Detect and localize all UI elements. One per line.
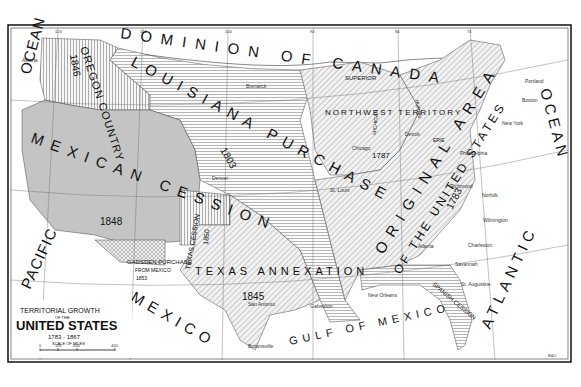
- city-chicago: Chicago: [352, 145, 371, 151]
- label-texas-annexation: TEXAS ANNEXATION: [195, 265, 368, 277]
- city-boston: Boston: [522, 97, 538, 103]
- map-title-years: 1783 - 1867: [48, 334, 81, 340]
- longitude-tick: 104: [225, 29, 232, 34]
- territorial-growth-map: 124 114 104 94 84 74 OCEAN PACIFIC DOMIN…: [0, 0, 581, 387]
- longitude-tick: 124: [55, 29, 62, 34]
- city-detroit: Detroit: [405, 131, 420, 137]
- city-st-augustine: St. Augustine: [461, 281, 491, 287]
- city-brownsville: Brownsville: [248, 343, 274, 349]
- year-gadsden: 1853: [136, 275, 147, 281]
- longitude-tick: 74: [467, 29, 472, 34]
- scale-tick: 400: [111, 343, 118, 348]
- city-new-orleans: New Orleans: [368, 292, 397, 298]
- label-gadsden-sub: FROM MEXICO: [135, 267, 171, 273]
- city-st-louis: St. Louis: [330, 187, 350, 193]
- city-philadelphia: Philadelphia: [460, 150, 487, 156]
- city-bismarck: Bismarck: [246, 83, 267, 89]
- label-northwest: NORTHWEST TERRITORY: [325, 108, 462, 117]
- city-astoria: Astoria: [22, 57, 38, 63]
- scale-tick: 100: [55, 343, 62, 348]
- city-charleston: Charleston: [468, 242, 492, 248]
- credit-mark: B&Ll: [548, 353, 557, 358]
- map-title-line1: TERRITORIAL GROWTH: [20, 307, 100, 314]
- city-savannah: Savannah: [455, 261, 478, 267]
- city-richmond: Richmond: [450, 183, 473, 189]
- label-lake-superior: SUPERIOR: [345, 75, 377, 81]
- year-texas-cession: 1850: [202, 229, 210, 245]
- longitude-tick: 94: [310, 29, 315, 34]
- year-northwest: 1787: [372, 151, 390, 160]
- label-gadsden: GADSDEN PURCHASE: [127, 259, 192, 265]
- longitude-tick: 84: [395, 29, 400, 34]
- city-san-antonio: San Antonio: [248, 301, 275, 307]
- city-galveston: Galveston: [310, 303, 333, 309]
- year-mexican-cession: 1848: [100, 216, 123, 227]
- city-norfolk: Norfolk: [482, 192, 498, 198]
- scale-tick: 200: [73, 343, 80, 348]
- city-denver: Denver: [212, 175, 228, 181]
- city-atlanta: Atlanta: [418, 243, 434, 249]
- map-title-line3: UNITED STATES: [16, 318, 118, 333]
- city-portland: Portland: [525, 78, 544, 84]
- city-new-york: New York: [502, 120, 524, 126]
- city-wilmington: Wilmington: [483, 217, 508, 223]
- label-lake-erie: ERIE: [433, 137, 445, 143]
